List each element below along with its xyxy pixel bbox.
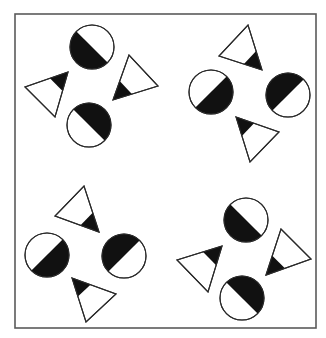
half-filled-circle-top-icon [70, 25, 114, 69]
puzzle-figure [0, 0, 326, 338]
figure-frame [15, 14, 316, 328]
half-filled-circle-right-icon [266, 73, 310, 117]
half-filled-circle-bottom-icon [67, 103, 111, 147]
partially-filled-triangle-right-icon [266, 229, 311, 275]
bottom-right-group [177, 198, 311, 320]
partially-filled-triangle-top-icon [55, 186, 99, 232]
partially-filled-triangle-right-icon [113, 55, 158, 100]
shape-groups [25, 25, 311, 322]
partially-filled-triangle-bottom-icon [72, 278, 116, 322]
bottom-left-group [25, 186, 146, 322]
partially-filled-triangle-top-icon [219, 25, 262, 70]
half-filled-circle-top-icon [224, 198, 268, 242]
half-filled-circle-bottom-icon [220, 276, 264, 320]
half-filled-circle-left-icon [189, 70, 233, 114]
partially-filled-triangle-bottom-icon [236, 117, 279, 162]
half-filled-circle-left-icon [25, 233, 69, 277]
partially-filled-triangle-left-icon [177, 246, 222, 292]
top-left-group [25, 25, 158, 147]
top-right-group [189, 25, 310, 162]
partially-filled-triangle-left-icon [25, 72, 68, 117]
half-filled-circle-right-icon [102, 234, 146, 278]
